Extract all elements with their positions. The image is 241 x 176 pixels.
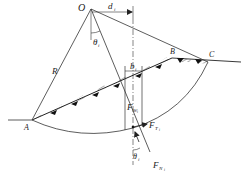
svg-text:N: N xyxy=(158,166,163,171)
svg-text:i: i xyxy=(98,43,100,48)
svg-text:d: d xyxy=(108,1,113,11)
normal-force-label: F N i xyxy=(152,160,165,172)
point-label-o: O xyxy=(78,2,85,13)
bi-label: b i xyxy=(130,61,137,72)
theta-bottom-label: θ i xyxy=(133,152,140,162)
tangential-force-arrow xyxy=(133,124,147,127)
slip-circle-arc xyxy=(32,62,208,133)
line-o-c xyxy=(91,9,208,62)
svg-text:i: i xyxy=(114,7,116,12)
tangential-force-label: F T i xyxy=(148,120,160,132)
svg-text:F: F xyxy=(152,160,159,170)
svg-text:F: F xyxy=(148,120,155,130)
normal-force-arrow xyxy=(135,132,139,142)
radius-label: R xyxy=(51,66,58,76)
svg-text:i: i xyxy=(137,110,138,114)
svg-text:i: i xyxy=(164,168,165,172)
theta-arc-bottom xyxy=(133,148,140,150)
slope-stability-diagram: O A B C R d i b i θ i θ i F W i F T i F … xyxy=(0,0,241,176)
svg-text:i: i xyxy=(159,128,160,132)
slope-hatching xyxy=(33,57,209,120)
point-label-b: B xyxy=(170,47,175,56)
point-label-c: C xyxy=(209,50,215,59)
weight-force-label: F W i xyxy=(126,102,138,114)
point-label-a: A xyxy=(23,123,29,132)
theta-arc-top xyxy=(91,31,100,33)
radius-line xyxy=(32,9,91,120)
svg-text:θ: θ xyxy=(133,152,137,161)
theta-top-label: θ i xyxy=(93,37,100,48)
di-label: d i xyxy=(108,1,116,12)
svg-text:F: F xyxy=(126,102,133,112)
svg-text:i: i xyxy=(138,157,140,162)
